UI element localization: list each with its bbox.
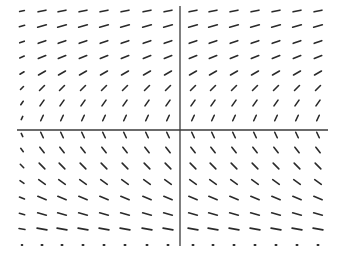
slope-segment	[60, 147, 64, 153]
slope-segment	[82, 115, 85, 120]
slope-segment	[145, 86, 150, 91]
slope-segment	[121, 10, 129, 12]
slope-segment	[253, 147, 257, 153]
slope-segment	[314, 213, 323, 215]
slope-segment	[121, 213, 130, 215]
slope-segment	[273, 163, 279, 169]
slope-segment	[251, 25, 260, 27]
slope-segment	[122, 180, 129, 185]
slope-segment	[79, 196, 87, 199]
slope-segment	[80, 71, 87, 75]
slope-segment	[272, 41, 280, 44]
slope-segment	[78, 228, 88, 230]
slope-segment	[123, 147, 127, 153]
slope-segment	[58, 56, 65, 59]
slope-segment	[317, 132, 320, 137]
slope-segment	[229, 228, 239, 230]
slope-segment	[295, 100, 299, 106]
slope-segment	[121, 56, 128, 59]
slope-segment	[231, 180, 238, 185]
slope-segment	[163, 228, 173, 230]
slope-segment	[144, 71, 151, 75]
slope-segment	[189, 10, 197, 12]
slope-segment	[210, 163, 216, 169]
slope-segment	[59, 180, 66, 185]
slope-segment	[190, 163, 196, 169]
slope-segment	[251, 41, 259, 44]
slope-segment	[232, 147, 236, 153]
slope-segment	[124, 132, 127, 137]
slope-segment	[317, 115, 320, 120]
slope-segment	[143, 10, 151, 12]
slope-segment	[231, 163, 237, 169]
slope-segment	[60, 100, 64, 106]
slope-segment	[164, 25, 173, 27]
slope-segment	[99, 228, 109, 230]
slope-segment	[39, 71, 46, 75]
slope-segment	[20, 41, 25, 43]
slope-segment	[41, 132, 44, 137]
slope-segment	[37, 228, 47, 230]
slope-segment	[315, 180, 322, 185]
slope-segment	[189, 56, 196, 59]
slope-segment	[38, 196, 46, 199]
slope-segment	[60, 86, 65, 91]
slope-segment	[293, 196, 301, 199]
slope-segment	[123, 100, 127, 106]
slope-segment	[21, 116, 23, 119]
slope-segment	[314, 10, 322, 12]
slope-segment	[230, 213, 239, 215]
slope-segment	[315, 71, 322, 75]
slope-segment	[253, 86, 258, 91]
slope-segment	[38, 25, 47, 27]
slope-segment	[79, 213, 88, 215]
slope-segment	[100, 213, 109, 215]
slope-segment	[191, 100, 195, 106]
slope-segment	[313, 228, 323, 230]
slope-segment	[211, 100, 215, 106]
slope-segment	[212, 115, 215, 120]
slope-segment	[254, 132, 257, 137]
slope-segment	[316, 147, 320, 153]
slope-segment	[316, 100, 320, 106]
slope-segment	[20, 56, 24, 58]
slope-segment	[143, 196, 151, 199]
slope-segment	[58, 213, 67, 215]
slope-segment	[146, 132, 149, 137]
slope-segment	[165, 180, 172, 185]
slope-segment	[39, 163, 45, 169]
slope-segment	[167, 132, 170, 137]
slope-segment	[293, 213, 302, 215]
slope-segment	[251, 213, 260, 215]
slope-segment	[101, 163, 107, 169]
slope-segment	[102, 100, 106, 106]
slope-segment	[316, 86, 321, 91]
slope-segment	[251, 10, 259, 12]
slope-segment	[272, 56, 279, 59]
slope-segment	[146, 115, 149, 120]
slope-segment	[209, 196, 217, 199]
slope-segment	[20, 197, 25, 199]
slope-segment	[61, 115, 64, 120]
slope-segment	[39, 180, 46, 185]
slope-segment	[101, 71, 108, 75]
slope-field-diagram	[0, 0, 338, 260]
slope-segment	[209, 213, 218, 215]
slope-segment	[274, 86, 279, 91]
slope-segment	[21, 133, 23, 136]
slope-segment	[230, 25, 239, 27]
slope-segment	[21, 148, 24, 151]
slope-segment	[100, 41, 108, 44]
slope-segment	[102, 86, 107, 91]
slope-segment	[209, 41, 217, 44]
slope-segment	[271, 228, 281, 230]
slope-segment	[252, 163, 258, 169]
slope-segment	[164, 213, 173, 215]
slope-segment	[58, 196, 66, 199]
slope-segment	[192, 115, 195, 120]
slope-segment	[275, 115, 278, 120]
slope-segment	[189, 25, 198, 27]
slope-segment	[164, 41, 172, 44]
slope-segment	[166, 86, 171, 91]
slope-segment	[315, 163, 321, 169]
